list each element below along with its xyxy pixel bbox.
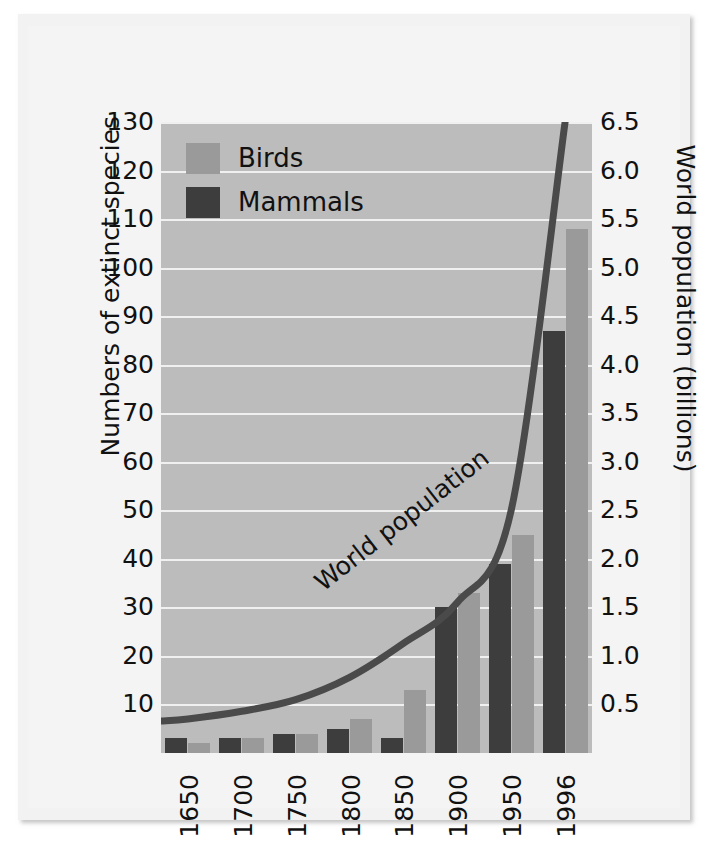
y-axis-right-tick-label: 6.0 <box>600 158 640 183</box>
y-axis-right-tick-label: 0.5 <box>600 691 640 716</box>
y-axis-left-tick-label: 70 <box>122 400 154 425</box>
y-axis-right-tick-label: 5.0 <box>600 255 640 280</box>
y-axis-right-tick-label: 1.0 <box>600 643 640 668</box>
bar-mammals <box>381 738 403 753</box>
x-axis-tick-label: 1900 <box>444 774 473 838</box>
bar-mammals <box>327 729 349 753</box>
gridline <box>161 413 592 415</box>
y-axis-right-ticks: 6.56.05.55.04.54.03.53.02.52.01.51.00.5 <box>600 122 680 753</box>
y-axis-left-tick-label: 30 <box>122 594 154 619</box>
y-axis-left-tick-label: 120 <box>106 158 154 183</box>
x-axis-tick-label: 1750 <box>283 774 312 838</box>
x-axis-tick-label: 1950 <box>498 774 527 838</box>
figure-root: Numbers of extinct species World populat… <box>0 0 708 844</box>
x-axis-tick-label: 1650 <box>175 774 204 838</box>
bar-birds <box>188 743 210 753</box>
legend-swatch-mammals-icon <box>186 187 220 218</box>
plot-area: Birds Mammals World population <box>161 122 592 753</box>
y-axis-left-tick-label: 10 <box>122 691 154 716</box>
gridline <box>161 316 592 318</box>
bar-mammals <box>489 564 511 753</box>
y-axis-right-tick-label: 1.5 <box>600 594 640 619</box>
y-axis-left-tick-label: 50 <box>122 497 154 522</box>
legend-label-mammals: Mammals <box>238 189 364 215</box>
y-axis-left-tick-label: 130 <box>106 109 154 134</box>
y-axis-left-tick-label: 100 <box>106 255 154 280</box>
y-axis-right-tick-label: 4.0 <box>600 352 640 377</box>
bar-birds <box>512 535 534 753</box>
y-axis-right-tick-label: 3.5 <box>600 400 640 425</box>
figure-panel: Numbers of extinct species World populat… <box>18 14 690 820</box>
gridline <box>161 122 592 124</box>
bar-mammals <box>543 331 565 753</box>
legend-label-birds: Birds <box>238 145 303 171</box>
gridline <box>161 510 592 512</box>
y-axis-right-tick-label: 2.5 <box>600 497 640 522</box>
gridline <box>161 462 592 464</box>
curve-annotation-label: World population <box>309 443 494 597</box>
gridline <box>161 365 592 367</box>
y-axis-right-tick-label: 2.0 <box>600 546 640 571</box>
bar-mammals <box>435 607 457 753</box>
y-axis-right-tick-label: 5.5 <box>600 206 640 231</box>
bar-mammals <box>165 738 187 753</box>
legend-item-mammals: Mammals <box>186 180 416 224</box>
legend: Birds Mammals <box>186 136 416 224</box>
x-axis-tick-label: 1800 <box>337 774 366 838</box>
y-axis-left-tick-label: 20 <box>122 643 154 668</box>
y-axis-right-tick-label: 4.5 <box>600 303 640 328</box>
bar-mammals <box>219 738 241 753</box>
y-axis-left-tick-label: 110 <box>106 206 154 231</box>
y-axis-left-tick-label: 40 <box>122 546 154 571</box>
x-axis-ticks: 16501700175018001850190019501996 <box>161 762 592 838</box>
bar-birds <box>242 738 264 753</box>
x-axis-tick-label: 1700 <box>229 774 258 838</box>
y-axis-left-tick-label: 90 <box>122 303 154 328</box>
y-axis-left-ticks: 130120110100908070605040302010 <box>76 122 154 753</box>
bar-birds <box>404 690 426 753</box>
y-axis-left-tick-label: 80 <box>122 352 154 377</box>
legend-item-birds: Birds <box>186 136 416 180</box>
bar-birds <box>296 734 318 753</box>
bar-birds <box>350 719 372 753</box>
bar-mammals <box>273 734 295 753</box>
x-axis-tick-label: 1850 <box>390 774 419 838</box>
y-axis-left-tick-label: 60 <box>122 449 154 474</box>
bar-birds <box>566 229 588 753</box>
gridline <box>161 268 592 270</box>
y-axis-right-tick-label: 6.5 <box>600 109 640 134</box>
bar-birds <box>458 593 480 753</box>
x-axis-tick-label: 1996 <box>552 774 581 838</box>
figure-panel-inner: Numbers of extinct species World populat… <box>28 26 680 808</box>
y-axis-right-tick-label: 3.0 <box>600 449 640 474</box>
legend-swatch-birds-icon <box>186 143 220 174</box>
